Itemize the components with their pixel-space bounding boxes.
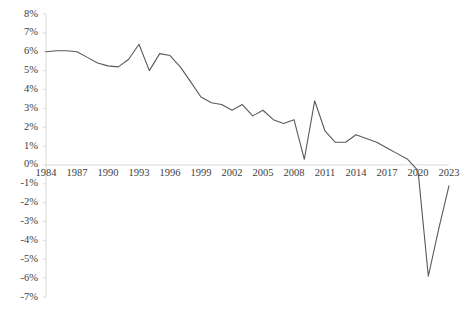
y-axis-tick-label: 4%	[4, 84, 38, 94]
x-axis-tick-label: 2023	[429, 168, 464, 178]
y-axis-tick-label: 1%	[4, 141, 38, 151]
y-axis-tick-label: -4%	[4, 235, 38, 245]
y-axis-tick-label: -6%	[4, 273, 38, 283]
data-series-line	[46, 44, 449, 276]
y-axis-tick-label: -2%	[4, 197, 38, 207]
y-axis-tick-label: -5%	[4, 254, 38, 264]
y-axis-tick-label: 2%	[4, 122, 38, 132]
y-axis-tick-label: 8%	[4, 9, 38, 19]
y-axis-tick-label: 6%	[4, 46, 38, 56]
y-axis-tick-label: -3%	[4, 216, 38, 226]
y-axis-tick-label: -7%	[4, 292, 38, 302]
y-axis-tick-label: 5%	[4, 65, 38, 75]
y-axis-tick-label: -1%	[4, 178, 38, 188]
y-axis-tick-label: 3%	[4, 103, 38, 113]
y-axis-tick-label: 7%	[4, 27, 38, 37]
